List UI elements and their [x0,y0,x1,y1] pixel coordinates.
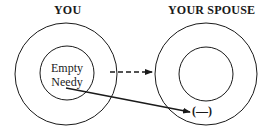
solid-arrow [66,88,190,112]
spouse-title: YOUR SPOUSE [168,3,255,18]
spouse-inner-circle [179,47,233,101]
you-title: YOU [54,3,81,18]
you-inner-text: Empty Needy [47,61,87,89]
needy-label: Needy [47,75,87,89]
diagram-canvas [0,0,270,137]
spouse-marker: (—) [192,104,212,119]
empty-label: Empty [47,61,87,75]
